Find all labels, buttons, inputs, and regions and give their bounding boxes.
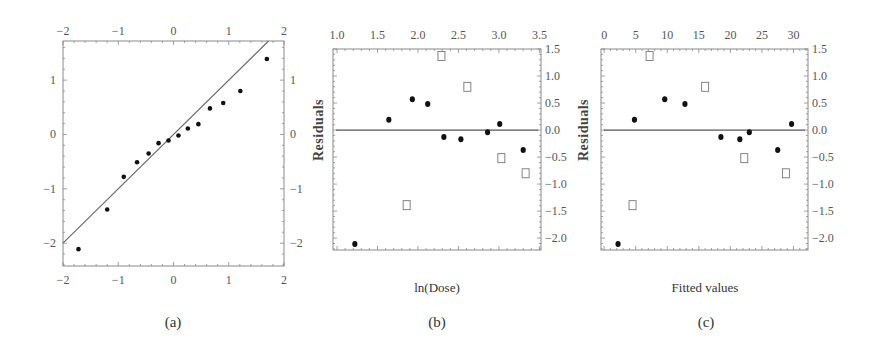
- reference-line: [63, 41, 269, 243]
- data-point-open-square: [403, 201, 410, 210]
- x-tick-label: 1.5: [370, 28, 385, 42]
- data-point-filled: [121, 175, 126, 180]
- x-tick-label: 3.5: [532, 28, 547, 42]
- y-tick-label-left: 1: [50, 73, 56, 87]
- data-point-open-square: [702, 82, 709, 91]
- data-points: [352, 52, 529, 248]
- y-tick-label: −1.5: [545, 204, 567, 218]
- y-tick-label: −1.5: [812, 204, 834, 218]
- x-tick-label-bottom: 2: [281, 273, 287, 287]
- y-tick-label: 1.0: [545, 69, 560, 83]
- x-tick-label-bottom: −2: [57, 273, 70, 287]
- y-tick-label: 1.5: [545, 42, 560, 56]
- y-tick-label: 1.0: [812, 69, 827, 83]
- data-point-filled: [265, 57, 270, 62]
- data-point-filled: [221, 101, 226, 106]
- plot-frame: [333, 49, 541, 250]
- data-point-filled: [156, 141, 161, 146]
- data-point-open-square: [646, 52, 653, 61]
- x-tick-label-top: 2: [281, 24, 287, 38]
- y-tick-label: −0.5: [812, 150, 834, 164]
- x-tick-label-top: 0: [171, 24, 177, 38]
- data-point-filled: [458, 136, 463, 142]
- y-axis-title: Residuals: [576, 99, 591, 161]
- data-point-filled: [718, 134, 723, 140]
- data-point-filled: [789, 121, 794, 127]
- x-tick-label: 10: [661, 28, 673, 42]
- data-point-filled: [238, 89, 243, 94]
- x-tick-label-top: −2: [57, 24, 70, 38]
- tick-labels: 0510152025301.51.00.50.0−0.5−1.0−1.5−2.0: [601, 28, 834, 245]
- x-tick-label-bottom: −1: [112, 273, 125, 287]
- caption-c: (c): [698, 314, 715, 331]
- tick-marks: [333, 49, 541, 250]
- y-tick-label-left: −2: [43, 236, 56, 250]
- x-tick-label: 1.0: [330, 28, 345, 42]
- x-tick-label: 0: [601, 28, 607, 42]
- data-point-filled: [425, 101, 430, 107]
- y-tick-label: −1.0: [812, 177, 834, 191]
- data-point-filled: [105, 207, 110, 212]
- plot-frame: [63, 41, 284, 266]
- tick-marks: [63, 41, 284, 266]
- data-points: [76, 57, 269, 252]
- data-point-filled: [485, 129, 490, 135]
- tick-labels: −2−2−1−1001122−2−2−1−10011: [43, 24, 303, 287]
- panel-a-qq-plot: −2−2−1−1001122−2−2−1−10011: [43, 24, 303, 287]
- data-point-filled: [615, 241, 620, 247]
- y-tick-label-left: 0: [50, 127, 56, 141]
- data-point-filled: [176, 133, 181, 138]
- y-tick-label: −0.5: [545, 150, 567, 164]
- x-axis-title: Fitted values: [672, 280, 739, 295]
- y-tick-label: −2.0: [812, 231, 834, 245]
- y-tick-label: 0.5: [812, 96, 827, 110]
- data-point-open-square: [438, 52, 445, 61]
- y-tick-label-right: 1: [290, 73, 296, 87]
- data-point-filled: [76, 247, 81, 252]
- data-point-filled: [196, 122, 201, 127]
- x-tick-label-bottom: 1: [226, 273, 232, 287]
- x-tick-label-top: 1: [226, 24, 232, 38]
- y-tick-label: 0.0: [545, 123, 560, 137]
- data-point-open-square: [782, 169, 789, 178]
- data-point-filled: [135, 160, 140, 165]
- data-point-open-square: [498, 154, 505, 163]
- data-point-filled: [441, 134, 446, 140]
- x-tick-label-bottom: 0: [171, 273, 177, 287]
- data-point-open-square: [741, 154, 748, 163]
- data-point-filled: [737, 136, 742, 142]
- data-point-filled: [632, 117, 637, 123]
- x-tick-label: 2.5: [451, 28, 466, 42]
- x-tick-label: 30: [787, 28, 799, 42]
- data-point-filled: [497, 121, 502, 127]
- y-tick-label-right: −1: [290, 182, 303, 196]
- y-tick-label-left: −1: [43, 182, 56, 196]
- data-point-filled: [662, 96, 667, 102]
- panel-b-residuals-vs-ln-dose: 1.01.52.02.53.03.51.51.00.50.0−0.5−1.0−1…: [311, 28, 567, 295]
- data-point-filled: [682, 101, 687, 107]
- data-point-filled: [352, 241, 357, 247]
- tick-labels: 1.01.52.02.53.03.51.51.00.50.0−0.5−1.0−1…: [330, 28, 567, 245]
- x-axis-title: ln(Dose): [414, 280, 460, 295]
- data-point-filled: [386, 117, 391, 123]
- x-tick-label: 20: [724, 28, 736, 42]
- y-axis-title: Residuals: [311, 99, 326, 161]
- data-point-open-square: [522, 169, 529, 178]
- y-tick-label: −1.0: [545, 177, 567, 191]
- data-point-filled: [410, 96, 415, 102]
- y-tick-label: 0.5: [545, 96, 560, 110]
- data-points: [615, 52, 794, 248]
- y-tick-label: 0.0: [812, 123, 827, 137]
- panel-c-residuals-vs-fitted: 0510152025301.51.00.50.0−0.5−1.0−1.5−2.0…: [576, 28, 834, 295]
- x-tick-label: 25: [756, 28, 768, 42]
- caption-b: (b): [428, 314, 446, 331]
- data-point-filled: [775, 147, 780, 153]
- data-point-open-square: [464, 82, 471, 91]
- data-point-filled: [747, 129, 752, 135]
- x-tick-label: 15: [693, 28, 705, 42]
- x-tick-label: 2.0: [410, 28, 425, 42]
- data-point-open-square: [629, 201, 636, 210]
- y-tick-label: −2.0: [545, 231, 567, 245]
- x-tick-label: 3.0: [491, 28, 506, 42]
- data-point-filled: [166, 138, 171, 143]
